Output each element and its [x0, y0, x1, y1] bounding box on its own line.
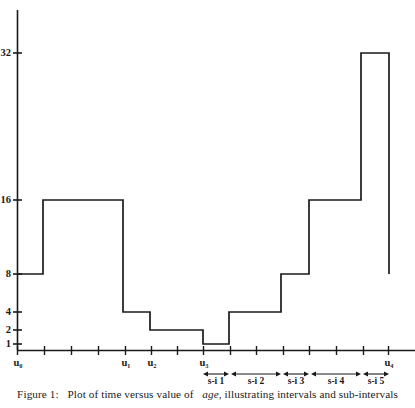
subinterval-label: s-i 1 — [208, 376, 225, 386]
subinterval-arrowhead-right — [304, 371, 309, 376]
y-tick-label-4: 4 — [6, 306, 12, 317]
step-plot: 32168421 u₀u₁u₂u₃u₄ s-i 1s-i 2s-i 3s-i 4… — [0, 0, 415, 388]
caption-spacer — [62, 388, 65, 400]
caption-body-1: Plot of time versus value of — [67, 388, 193, 400]
subinterval-label: s-i 5 — [368, 376, 385, 386]
figure-caption: Figure 1: Plot of time versus value of a… — [0, 388, 415, 400]
x-tick-label-u0: u₀ — [14, 357, 23, 368]
caption-spacer-2 — [197, 388, 200, 400]
y-tick-label-32: 32 — [1, 47, 12, 58]
y-axis-tick-labels: 32168421 — [1, 47, 12, 349]
subinterval-3: s-i 3 — [283, 371, 309, 386]
caption-emphasis: age — [202, 388, 218, 400]
caption-prefix: Figure 1: — [17, 388, 59, 400]
subinterval-markers: s-i 1s-i 2s-i 3s-i 4s-i 5 — [203, 371, 389, 386]
subinterval-1: s-i 1 — [203, 371, 229, 386]
subinterval-5: s-i 5 — [363, 371, 389, 386]
x-tick-label-u4: u₄ — [385, 357, 395, 368]
subinterval-arrowhead-right — [224, 371, 229, 376]
subinterval-label: s-i 4 — [328, 376, 345, 386]
subinterval-arrowhead-left — [231, 371, 236, 376]
caption-body-2: , illustrating intervals and sub-interva… — [219, 388, 398, 400]
x-tick-label-u1: u₁ — [122, 357, 131, 368]
subinterval-label: s-i 3 — [288, 376, 305, 386]
step-series — [17, 53, 389, 344]
x-tick-label-u2: u₂ — [148, 357, 157, 368]
subinterval-label: s-i 2 — [248, 376, 265, 386]
subinterval-2: s-i 2 — [231, 371, 281, 386]
y-tick-label-2: 2 — [6, 324, 11, 335]
x-axis-tick-labels: u₀u₁u₂u₃u₄ — [14, 357, 395, 368]
y-tick-label-8: 8 — [6, 268, 11, 279]
y-tick-label-16: 16 — [1, 194, 12, 205]
subinterval-4: s-i 4 — [311, 371, 361, 386]
subinterval-arrowhead-right — [276, 371, 281, 376]
subinterval-arrowhead-left — [311, 371, 316, 376]
subinterval-arrowhead-right — [356, 371, 361, 376]
y-tick-label-1: 1 — [6, 338, 11, 349]
x-tick-label-u3: u₃ — [200, 357, 209, 368]
step-line — [17, 53, 389, 344]
figure-container: 32168421 u₀u₁u₂u₃u₄ s-i 1s-i 2s-i 3s-i 4… — [0, 0, 415, 408]
subinterval-arrowhead-right — [384, 371, 389, 376]
